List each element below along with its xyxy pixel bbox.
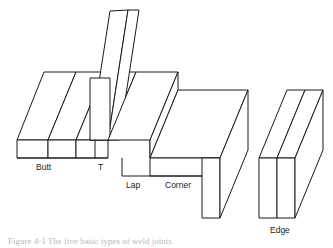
weld-joints-diagram: Butt T Lap Corner Edge	[0, 0, 333, 248]
t-base-plate-front-face	[76, 140, 108, 158]
label-corner: Corner	[165, 180, 191, 190]
label-edge: Edge	[270, 225, 290, 235]
butt-right-plate-front-face	[48, 140, 76, 158]
edge-joint-group	[259, 90, 323, 218]
label-lap: Lap	[126, 180, 140, 190]
t-upright-base-notch	[90, 78, 110, 140]
butt-left-plate-front-face	[17, 140, 48, 158]
label-t: T	[98, 162, 103, 172]
label-butt: Butt	[36, 162, 52, 172]
figure-caption: Figure 4-1 The five basic types of weld …	[8, 236, 333, 247]
corner-vertical-leg-front-face	[202, 158, 220, 218]
edge-right-plate-front-face	[277, 158, 295, 218]
figure-page: Butt T Lap Corner Edge Figure 4-1 The fi…	[0, 0, 333, 248]
edge-left-plate-front-face	[259, 158, 277, 218]
